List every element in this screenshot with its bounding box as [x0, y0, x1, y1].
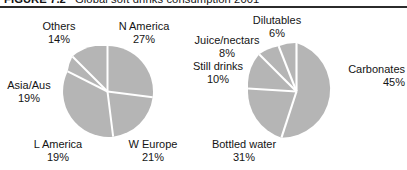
pie-label-l-america: L America 19%	[27, 138, 89, 163]
figure-container: FIGURE 7.2Global soft drinks consumption…	[0, 0, 407, 170]
pie-label-bottled-water-value: 31%	[203, 151, 285, 164]
pie-label-asia-aus-value: 19%	[1, 92, 57, 105]
pie-label-bottled-water-name: Bottled water	[212, 138, 276, 150]
pie-label-dilutables-name: Dilutables	[253, 14, 301, 26]
pie-label-l-america-value: 19%	[27, 151, 89, 164]
figure-number: FIGURE 7.2	[4, 0, 66, 5]
pie-label-carbonates-value: 45%	[331, 76, 405, 89]
pie-label-juice-nectars: Juice/nectars 8%	[188, 34, 266, 59]
pie-label-juice-nectars-value: 8%	[188, 47, 266, 60]
pie-regions-svg	[62, 46, 153, 137]
pie-label-others-name: Others	[42, 20, 75, 32]
pie-label-n-america-value: 27%	[108, 33, 180, 46]
pie-label-l-america-name: L America	[34, 138, 83, 150]
pie-label-w-europe-value: 21%	[123, 151, 183, 164]
pie-label-w-europe: W Europe 21%	[123, 138, 183, 163]
pie-label-bottled-water: Bottled water 31%	[203, 138, 285, 163]
pie-label-carbonates: Carbonates 45%	[331, 63, 405, 88]
pie-label-w-europe-name: W Europe	[129, 138, 178, 150]
figure-caption: FIGURE 7.2Global soft drinks consumption…	[4, 0, 259, 5]
pie-label-juice-nectars-name: Juice/nectars	[195, 34, 260, 46]
pie-label-others-value: 14%	[35, 33, 83, 46]
pie-label-others: Others 14%	[35, 20, 83, 45]
pie-label-carbonates-name: Carbonates	[348, 63, 405, 75]
pie-label-still-drinks: Still drinks 10%	[182, 60, 254, 85]
pie-slice-n-america	[108, 46, 153, 97]
pie-label-asia-aus-name: Asia/Aus	[7, 79, 50, 91]
pie-label-asia-aus: Asia/Aus 19%	[1, 79, 57, 104]
pie-label-still-drinks-value: 10%	[182, 73, 254, 86]
figure-title-text: Global soft drinks consumption 2001	[75, 0, 259, 5]
pie-label-still-drinks-name: Still drinks	[193, 60, 243, 72]
pie-chart-regions	[62, 46, 153, 137]
pie-label-n-america-name: N America	[119, 20, 170, 32]
caption-divider-rule	[0, 6, 407, 8]
pie-slice-w-europe	[108, 92, 153, 137]
pie-label-n-america: N America 27%	[108, 20, 180, 45]
